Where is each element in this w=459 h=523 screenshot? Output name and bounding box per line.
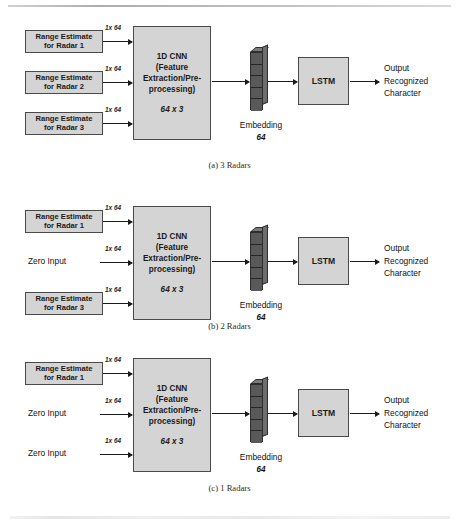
lstm-label: LSTM — [312, 76, 335, 86]
embedding-cell — [251, 88, 262, 100]
output-line-2: Recognized — [384, 407, 428, 420]
embedding-cell — [251, 53, 262, 65]
dim-label-c-3: 1x 64 — [105, 437, 121, 444]
dim-label-b-3: 1x 64 — [105, 286, 121, 293]
embedding-label-c: Embedding — [226, 452, 296, 462]
input-box-a-2: Range Estimate for Radar 2 — [25, 71, 103, 94]
arrow-c-cnn-to-embedding — [212, 413, 249, 414]
lstm-label: LSTM — [312, 408, 335, 418]
output-line-3: Character — [384, 87, 428, 100]
output-line-2: Recognized — [384, 255, 428, 268]
dim-label-c-2: 1x 64 — [105, 397, 121, 404]
input-line-1: Range Estimate — [36, 73, 93, 82]
zero-input-label-c-1: Zero Input — [28, 408, 66, 418]
embedding-cell — [251, 76, 262, 88]
cnn-shape-label: 64 x 3 — [161, 104, 184, 115]
arrow-a-3 — [103, 123, 132, 124]
arrow-b-embedding-to-lstm — [268, 261, 297, 262]
input-line-1: Range Estimate — [36, 364, 93, 373]
cnn-line-1: 1D CNN — [157, 51, 187, 62]
arrow-b-lstm-to-output — [350, 261, 379, 262]
output-line-1: Output — [384, 62, 428, 75]
dim-label-a-1: 1x 64 — [105, 24, 121, 31]
cnn-block-a: 1D CNN (Feature Extraction/Pre- processi… — [133, 26, 211, 140]
zero-input-label-c-2: Zero Input — [28, 448, 66, 458]
input-box-text: Range Estimate for Radar 1 — [36, 213, 93, 231]
dim-label-b-1: 1x 64 — [105, 204, 121, 211]
output-text-a: Output Recognized Character — [384, 62, 428, 100]
embedding-cell — [251, 279, 262, 291]
embedding-cell — [251, 431, 262, 443]
embedding-cell — [251, 385, 262, 397]
embedding-cell — [251, 420, 262, 432]
output-line-3: Character — [384, 419, 428, 432]
panel-b: Range Estimate for Radar 1 1x 64 Zero In… — [0, 180, 459, 342]
output-line-1: Output — [384, 242, 428, 255]
cnn-line-2: (Feature — [156, 62, 188, 73]
input-line-2: for Radar 1 — [36, 42, 93, 51]
arrow-c-2 — [100, 414, 132, 415]
arrow-a-2 — [103, 82, 132, 83]
dim-label-a-2: 1x 64 — [105, 65, 121, 72]
input-line-2: for Radar 3 — [36, 124, 93, 133]
arrow-a-embedding-to-lstm — [268, 81, 297, 82]
lstm-block-c: LSTM — [298, 389, 349, 437]
embedding-size-c: 64 — [226, 465, 296, 474]
output-line-1: Output — [384, 394, 428, 407]
dim-label-a-3: 1x 64 — [105, 106, 121, 113]
panel-c: Range Estimate for Radar 1 1x 64 Zero In… — [0, 342, 459, 523]
lstm-block-b: LSTM — [298, 237, 349, 285]
cnn-line-2: (Feature — [156, 394, 188, 405]
embedding-block-b — [250, 227, 269, 292]
arrow-a-1 — [103, 41, 132, 42]
arrow-c-lstm-to-output — [350, 413, 379, 414]
output-text-c: Output Recognized Character — [384, 394, 428, 432]
input-line-1: Range Estimate — [36, 32, 93, 41]
arrow-c-1 — [103, 373, 132, 374]
embedding-cell — [251, 99, 262, 111]
cnn-line-1: 1D CNN — [157, 383, 187, 394]
lstm-label: LSTM — [312, 256, 335, 266]
cnn-line-4: processing) — [149, 264, 195, 275]
panel-a: Range Estimate for Radar 1 1x 64 Range E… — [0, 0, 459, 180]
cnn-line-4: processing) — [149, 84, 195, 95]
arrow-b-1 — [103, 221, 132, 222]
input-line-2: for Radar 3 — [36, 304, 93, 313]
cnn-block-c: 1D CNN (Feature Extraction/Pre- processi… — [133, 358, 211, 472]
input-line-2: for Radar 2 — [36, 83, 93, 92]
input-line-1: Range Estimate — [36, 114, 93, 123]
input-box-b-1: Range Estimate for Radar 1 — [25, 210, 103, 233]
cnn-shape-label: 64 x 3 — [161, 284, 184, 295]
cnn-line-3: Extraction/Pre- — [143, 405, 201, 416]
embedding-block-a — [250, 47, 269, 112]
embedding-front-face — [250, 384, 263, 442]
output-line-3: Character — [384, 267, 428, 280]
arrow-b-2 — [100, 262, 132, 263]
embedding-label-b: Embedding — [226, 300, 296, 310]
output-line-2: Recognized — [384, 75, 428, 88]
cnn-line-3: Extraction/Pre- — [143, 253, 201, 264]
embedding-cell — [251, 408, 262, 420]
input-line-2: for Radar 1 — [36, 374, 93, 383]
lstm-block-a: LSTM — [298, 57, 349, 105]
input-line-2: for Radar 1 — [36, 222, 93, 231]
dim-label-b-2: 1x 64 — [105, 245, 121, 252]
cnn-line-2: (Feature — [156, 242, 188, 253]
embedding-cell — [251, 233, 262, 245]
input-box-text: Range Estimate for Radar 2 — [36, 74, 93, 92]
panel-caption-a: (a) 3 Radars — [0, 160, 459, 170]
arrow-a-cnn-to-embedding — [212, 81, 249, 82]
cnn-line-1: 1D CNN — [157, 231, 187, 242]
cnn-line-3: Extraction/Pre- — [143, 73, 201, 84]
input-line-1: Range Estimate — [36, 212, 93, 221]
input-line-1: Range Estimate — [36, 294, 93, 303]
cnn-block-b: 1D CNN (Feature Extraction/Pre- processi… — [133, 206, 211, 320]
embedding-label-a: Embedding — [226, 120, 296, 130]
embedding-size-a: 64 — [226, 133, 296, 142]
input-box-a-1: Range Estimate for Radar 1 — [25, 30, 103, 53]
embedding-cell — [251, 268, 262, 280]
embedding-block-c — [250, 379, 269, 444]
figure-canvas: Range Estimate for Radar 1 1x 64 Range E… — [0, 0, 459, 523]
arrow-c-embedding-to-lstm — [268, 413, 297, 414]
input-box-b-3: Range Estimate for Radar 3 — [25, 292, 103, 315]
